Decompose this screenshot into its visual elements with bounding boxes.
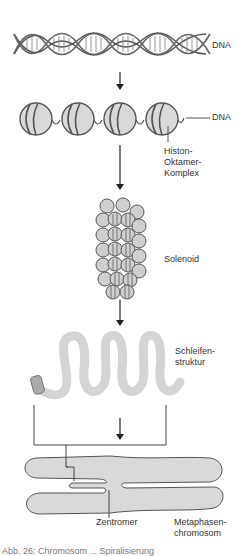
solenoid-mini-icon (30, 375, 45, 395)
arrow-down-icon (116, 300, 124, 326)
solenoid-icon (96, 198, 146, 299)
nucleosome-chain-icon (20, 103, 210, 142)
arrow-down-icon (116, 418, 124, 440)
centromere-label: Zentromer (96, 517, 138, 528)
loop-structure-icon (40, 335, 180, 394)
metaphase-chromosome-icon (25, 456, 223, 514)
dna-helix-icon (14, 33, 210, 55)
solenoid-label: Solenoid (164, 254, 199, 265)
dna-label: DNA (212, 40, 231, 51)
metaphase-chromosome-label: Metaphasen- chromosom (174, 517, 227, 539)
arrow-down-icon (116, 145, 124, 190)
bracket-lines (34, 405, 166, 445)
dna-label-nucleosome: DNA (212, 112, 231, 123)
arrow-down-icon (116, 72, 124, 90)
loop-structure-label: Schleifen- struktur (175, 346, 215, 368)
figure-caption-cut: Abb. 26: Chromosom ... Spiralisierung (2, 546, 154, 556)
histone-octamer-label: Histon- Oktamer- Komplex (164, 146, 202, 179)
